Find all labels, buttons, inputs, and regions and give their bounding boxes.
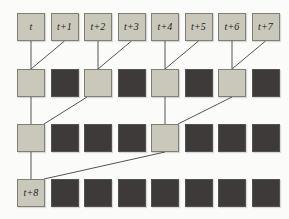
connection-line [232,41,266,69]
timestep-square-t-6: t+6 [218,13,246,41]
connection-line [44,152,165,179]
dark-square-r3c3 [84,124,112,152]
light-square-r3c5 [151,124,179,152]
timestep-square-t-5: t+5 [185,13,213,41]
dark-square-r4c5 [151,179,179,207]
dark-square-r3c4 [118,124,146,152]
dark-square-r4c2 [51,179,79,207]
light-square-r2c1 [17,69,45,97]
dark-square-r2c8 [252,69,280,97]
dark-square-r3c2 [51,124,79,152]
dark-square-r3c8 [252,124,280,152]
light-square-r2c3 [84,69,112,97]
timestep-label: t+7 [258,22,273,32]
dark-square-r2c6 [185,69,213,97]
dark-square-r3c6 [185,124,213,152]
timestep-square-t-8: t+8 [17,179,45,207]
dark-square-r2c4 [118,69,146,97]
dark-square-r3c7 [218,124,246,152]
timestep-label: t+3 [124,22,139,32]
timestep-label: t+4 [157,22,172,32]
timestep-label: t+5 [191,22,206,32]
dark-square-r4c4 [118,179,146,207]
timestep-label: t+8 [23,188,38,198]
light-square-r3c1 [17,124,45,152]
dark-square-r4c6 [185,179,213,207]
timestep-square-t-3: t+3 [118,13,146,41]
dark-square-r4c8 [252,179,280,207]
dark-square-r4c7 [218,179,246,207]
timestep-square-t-2: t+2 [84,13,112,41]
timestep-label: t+6 [224,22,239,32]
timestep-square-t: t [17,13,45,41]
connection-line [44,97,87,124]
connection-line [178,97,232,124]
light-square-r2c5 [151,69,179,97]
light-square-r2c7 [218,69,246,97]
timestep-label: t+1 [57,22,72,32]
timestep-label: t [30,22,33,32]
dark-square-r4c3 [84,179,112,207]
connection-line [31,41,65,69]
timestep-square-t-1: t+1 [51,13,79,41]
timestep-square-t-4: t+4 [151,13,179,41]
dark-square-r2c2 [51,69,79,97]
connection-line [165,41,199,69]
temporal-aggregation-diagram: tt+1t+2t+3t+4t+5t+6t+7t+8 [0,0,289,219]
timestep-square-t-7: t+7 [252,13,280,41]
timestep-label: t+2 [90,22,105,32]
connection-line [98,41,132,69]
